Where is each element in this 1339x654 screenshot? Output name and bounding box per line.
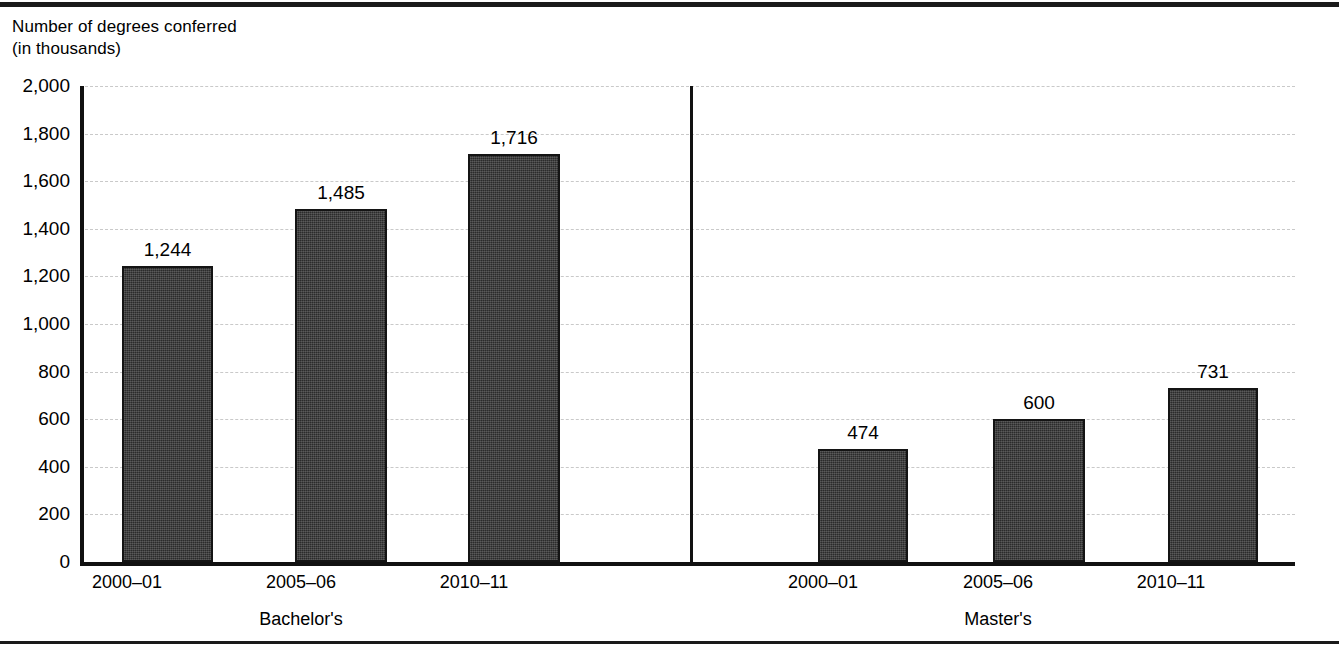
gridline [80,514,1295,515]
x-axis-line [80,562,1295,566]
gridline [80,229,1295,230]
y-tick-label: 1,200 [2,265,70,287]
y-axis-tick-labels: 2,000 1,800 1,600 1,400 1,200 1,000 800 … [0,86,70,566]
group-label-bachelors: Bachelor's [236,609,366,630]
group-label-masters: Master's [933,609,1063,630]
bar-value-bachelors-2005-06: 1,485 [295,182,387,204]
y-tick-label: 1,400 [2,218,70,240]
bar-value-masters-2010-11: 731 [1168,361,1258,383]
y-tick-label: 0 [2,551,70,573]
plot-area: 1,244 1,485 1,716 474 600 731 [80,86,1295,562]
bar-masters-2005-06[interactable] [993,419,1085,562]
y-tick-label: 1,600 [2,170,70,192]
bar-value-bachelors-2010-11: 1,716 [468,127,560,149]
gridline [80,181,1295,182]
gridline [80,276,1295,277]
bar-bachelors-2005-06[interactable] [295,209,387,562]
y-axis-line [80,86,84,562]
gridline [80,372,1295,373]
gridline [80,467,1295,468]
y-tick-label: 1,800 [2,123,70,145]
gridline [80,324,1295,325]
bar-value-masters-2005-06: 600 [993,392,1085,414]
y-tick-label: 2,000 [2,75,70,97]
x-tick-masters-2005-06: 2005–06 [933,572,1063,593]
top-rule [0,2,1339,7]
x-tick-masters-2000-01: 2000–01 [758,572,888,593]
bar-masters-2000-01[interactable] [818,449,908,562]
x-tick-bachelors-2000-01: 2000–01 [62,572,192,593]
bar-bachelors-2010-11[interactable] [468,154,560,562]
bar-value-masters-2000-01: 474 [818,422,908,444]
y-tick-label: 600 [2,408,70,430]
gridline [80,86,1295,87]
gridline [80,419,1295,420]
bar-masters-2010-11[interactable] [1168,388,1258,562]
y-tick-label: 1,000 [2,313,70,335]
y-tick-label: 400 [2,456,70,478]
bar-bachelors-2000-01[interactable] [122,266,213,562]
x-tick-masters-2010-11: 2010–11 [1106,572,1236,593]
bar-value-bachelors-2000-01: 1,244 [122,239,213,261]
group-divider-line [690,86,693,566]
chart-figure: Number of degrees conferred (in thousand… [0,0,1339,654]
x-tick-bachelors-2010-11: 2010–11 [409,572,539,593]
y-tick-label: 200 [2,503,70,525]
x-tick-bachelors-2005-06: 2005–06 [236,572,366,593]
y-tick-label: 800 [2,361,70,383]
chart-title: Number of degrees conferred (in thousand… [12,16,237,60]
gridline [80,134,1295,135]
bottom-rule [0,641,1339,644]
